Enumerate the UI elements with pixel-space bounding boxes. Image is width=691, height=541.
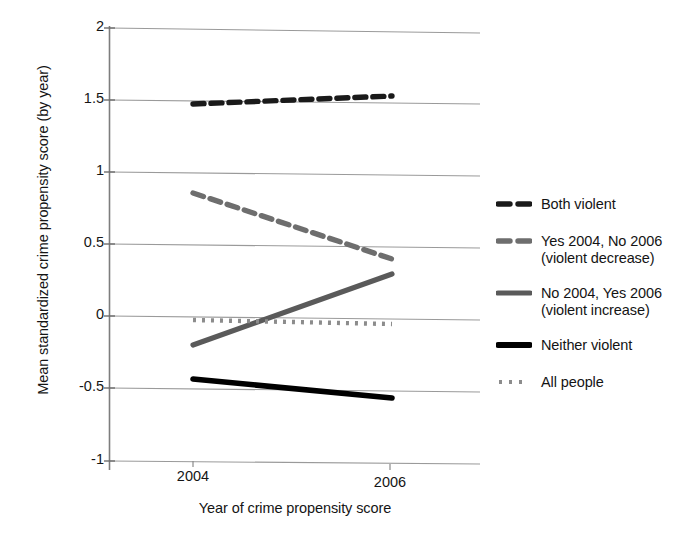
legend-swatch-neither-violent bbox=[496, 338, 532, 352]
series-line-all-people bbox=[193, 320, 392, 324]
chart-figure: Mean standardized crime propensity score… bbox=[0, 0, 691, 541]
legend-swatch-both-violent bbox=[496, 197, 532, 211]
legend-swatch-violent-decrease bbox=[496, 234, 532, 248]
legend-item-violent-increase: No 2004, Yes 2006 (violent increase) bbox=[496, 285, 662, 318]
legend-item-both-violent: Both violent bbox=[496, 196, 616, 213]
legend-swatch-all-people bbox=[496, 375, 532, 389]
series-line-violent-increase bbox=[193, 274, 392, 345]
legend-item-violent-decrease: Yes 2004, No 2006 (violent decrease) bbox=[496, 233, 662, 266]
legend-label-violent-decrease: Yes 2004, No 2006 (violent decrease) bbox=[541, 233, 662, 266]
legend-label-both-violent: Both violent bbox=[541, 196, 616, 213]
gridlines bbox=[109, 28, 480, 464]
legend-swatch-violent-increase bbox=[496, 286, 532, 300]
legend-item-all-people: All people bbox=[496, 374, 604, 391]
legend-label-neither-violent: Neither violent bbox=[541, 337, 632, 354]
legend-item-neither-violent: Neither violent bbox=[496, 337, 632, 354]
plot-area bbox=[0, 0, 691, 541]
series-line-neither-violent bbox=[193, 379, 392, 398]
legend-label-all-people: All people bbox=[541, 374, 604, 391]
legend-label-violent-increase: No 2004, Yes 2006 (violent increase) bbox=[541, 285, 662, 318]
series-line-violent-decrease bbox=[193, 193, 392, 259]
